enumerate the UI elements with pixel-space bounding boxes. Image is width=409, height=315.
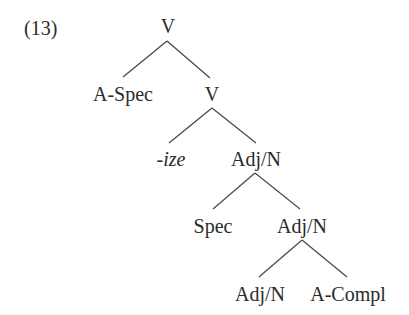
edge-adjn-spec (213, 173, 255, 209)
tree-edges (0, 0, 409, 315)
node-adj-n: Adj/N (231, 149, 281, 169)
node-ize: -ize (157, 149, 186, 169)
node-spec: Spec (194, 216, 233, 236)
edge-adjn-adjn (255, 173, 300, 209)
edge-v-adjn (212, 108, 256, 143)
edge-v-aspec (123, 41, 167, 77)
node-a-spec: A-Spec (93, 84, 153, 104)
edge-v-ize (169, 108, 212, 143)
node-v: V (205, 84, 219, 104)
edge-v-v (167, 41, 210, 78)
node-adj-n-lower: Adj/N (235, 284, 285, 304)
node-root-v: V (161, 16, 175, 36)
node-a-compl: A-Compl (310, 284, 386, 304)
edge-adjn-acompl (302, 240, 347, 277)
edge-adjn-adjn-lower (259, 240, 302, 277)
node-adj-n-mid: Adj/N (277, 216, 327, 236)
